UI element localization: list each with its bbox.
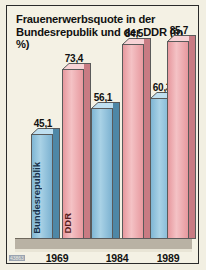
ground-band bbox=[15, 239, 192, 249]
bar-inline-label-bundesrepublik: Bundesrepublik bbox=[32, 160, 52, 234]
bar-side-face bbox=[84, 63, 91, 239]
chart-figure: Frauenerwerbsquote in der Bundesrepublik… bbox=[0, 0, 206, 270]
bar-front-face: DDR bbox=[62, 69, 84, 239]
bar-bundesrepublik-1984 bbox=[91, 108, 113, 239]
x-tick-label-1969: 1969 bbox=[35, 252, 79, 264]
bar-side-face bbox=[189, 35, 196, 239]
x-tick-label-1984: 1984 bbox=[95, 252, 139, 264]
value-label-ddr-1984: 84,5 bbox=[119, 28, 149, 39]
x-tick-label-1989: 1989 bbox=[146, 252, 190, 264]
bar-front-face: Bundesrepublik bbox=[31, 134, 53, 239]
value-label-bundesrepublik-1969: 45,1 bbox=[28, 118, 58, 129]
bar-inline-label-ddr: DDR bbox=[63, 211, 83, 234]
bar-ddr-1984 bbox=[122, 44, 144, 239]
chart-title-line-1: Frauenerwerbsquote in der bbox=[16, 13, 196, 26]
bar-side-face bbox=[113, 102, 120, 239]
bar-ddr-1989 bbox=[167, 41, 189, 239]
value-label-ddr-1989: 85,7 bbox=[164, 25, 194, 36]
bar-bundesrepublik-1969: Bundesrepublik bbox=[31, 134, 53, 239]
value-label-ddr-1969: 73,4 bbox=[59, 53, 89, 64]
bar-side-face bbox=[53, 128, 60, 239]
value-label-bundesrepublik-1984: 56,1 bbox=[88, 92, 118, 103]
reference-code: 43863 bbox=[9, 255, 25, 261]
bar-front-face bbox=[122, 44, 144, 239]
bar-front-face bbox=[167, 41, 189, 239]
plot-area: Bundesrepublik 45,1 DDR 73,4 1969 bbox=[7, 40, 198, 263]
bar-front-face bbox=[91, 108, 113, 239]
bar-ddr-1969: DDR bbox=[62, 69, 84, 239]
chart-card: Frauenerwerbsquote in der Bundesrepublik… bbox=[6, 5, 199, 264]
